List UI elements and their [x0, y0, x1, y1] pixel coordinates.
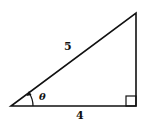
triangle [11, 13, 136, 106]
base-label: 4 [76, 109, 84, 121]
angle-label: θ [39, 91, 46, 102]
hypotenuse-label: 5 [64, 40, 72, 53]
right-triangle-diagram: 5 4 θ [0, 0, 142, 121]
right-angle-marker [126, 96, 136, 106]
